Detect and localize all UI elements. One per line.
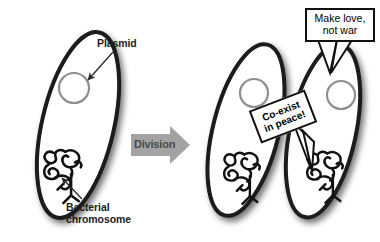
bacterial-division-figure: Plasmid Bacterial chromosome Division Ma… <box>0 0 380 242</box>
plasmid-icon <box>59 73 89 103</box>
bacterial-chromosome-label: Bacterial chromosome <box>66 202 131 226</box>
plasmid-label: Plasmid <box>97 38 137 50</box>
plasmid-icon <box>240 79 268 107</box>
division-arrow-label: Division <box>134 138 175 150</box>
plasmid-icon <box>327 81 355 109</box>
speech-bubble-make-love: Make love, not war <box>305 8 375 42</box>
